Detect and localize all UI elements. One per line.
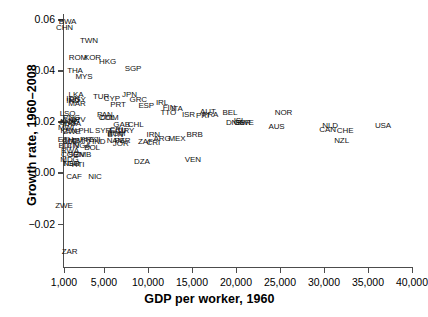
data-point-label: ESP <box>138 102 154 110</box>
x-tick-label: 5,000 <box>91 276 117 288</box>
data-point-label: CAF <box>66 173 82 181</box>
y-tick <box>58 70 64 71</box>
x-tick-label: 20,000 <box>220 276 252 288</box>
data-point-label: TWN <box>80 37 98 45</box>
x-tick <box>192 267 193 273</box>
data-point-label: ISR <box>182 111 195 119</box>
x-tick-label: 40,000 <box>396 276 428 288</box>
data-point-label: DZA <box>134 158 150 166</box>
x-tick <box>236 267 237 273</box>
data-point-label: MEX <box>169 135 186 143</box>
y-tick <box>58 224 64 225</box>
x-tick-label: 30,000 <box>308 276 340 288</box>
data-point-label: PRT <box>110 101 126 109</box>
data-point-label: NIC <box>88 173 101 181</box>
y-tick-label: 0.04 <box>35 64 55 76</box>
y-tick-label: 0.02 <box>35 115 55 127</box>
data-point-label: HTI <box>72 161 85 169</box>
data-point-label: CHN <box>56 24 73 32</box>
x-tick-label: 35,000 <box>352 276 384 288</box>
x-tick <box>64 267 65 273</box>
y-tick <box>58 172 64 173</box>
data-point-label: NOR <box>275 109 292 117</box>
data-point-label: JOR <box>113 140 129 148</box>
data-point-label: HKG <box>99 58 116 66</box>
x-tick-label: 1,000 <box>51 276 77 288</box>
plot-area: −0.020.000.020.040.06 1,0005,00010,00015… <box>64 14 412 267</box>
data-point-label: VEN <box>185 156 201 164</box>
data-point-label: SGP <box>125 65 142 73</box>
data-point-label: TTO <box>160 109 176 117</box>
data-point-label: MAR <box>68 100 85 108</box>
data-point-label: PRI <box>196 112 209 120</box>
x-tick <box>148 267 149 273</box>
x-tick-label: 10,000 <box>132 276 164 288</box>
data-point-label: BRB <box>187 131 203 139</box>
x-axis-line <box>63 267 412 268</box>
data-point-label: ZWE <box>55 202 72 210</box>
x-tick <box>412 267 413 273</box>
data-point-label: ISL <box>234 117 246 125</box>
x-axis-title: GDP per worker, 1960 <box>0 292 419 306</box>
data-point-label: AUS <box>268 123 284 131</box>
data-point-label: NZL <box>334 137 349 145</box>
data-point-label: CAN <box>319 126 336 134</box>
x-tick <box>324 267 325 273</box>
x-tick-label: 25,000 <box>264 276 296 288</box>
x-tick <box>280 267 281 273</box>
y-tick-label: 0.00 <box>35 166 55 178</box>
data-point-label: CHE <box>337 127 354 135</box>
data-point-label: CRI <box>147 139 160 147</box>
data-point-label: ZAR <box>62 248 78 256</box>
y-tick-label: −0.02 <box>28 218 55 230</box>
data-point-label: MYS <box>75 73 92 81</box>
x-tick <box>368 267 369 273</box>
y-tick-label: 0.06 <box>35 13 55 25</box>
x-tick <box>104 267 105 273</box>
x-tick-label: 15,000 <box>176 276 208 288</box>
data-point-label: USA <box>375 122 391 130</box>
